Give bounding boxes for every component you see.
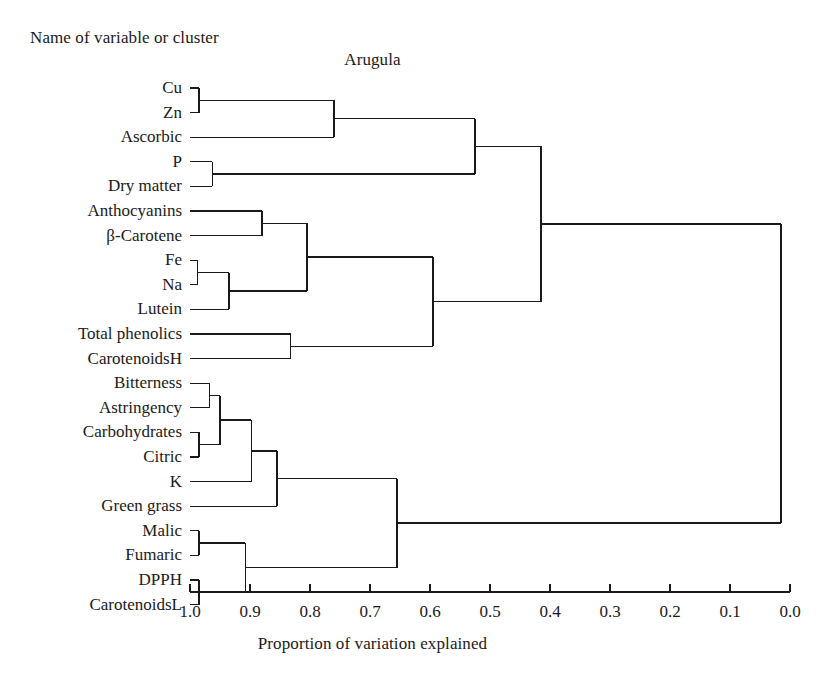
dendrogram-tree [0,0,835,692]
dendrogram-figure: Name of variable or cluster Arugula CuZn… [0,0,835,692]
x-tick-label: 1.0 [170,602,210,622]
x-axis-title: Proportion of variation explained [0,634,790,654]
x-tick-label: 0.5 [470,602,510,622]
x-tick-label: 0.6 [410,602,450,622]
x-tick-label: 0.2 [650,602,690,622]
x-tick-label: 0.9 [230,602,270,622]
x-tick-label: 0.7 [350,602,390,622]
x-tick-label: 0.8 [290,602,330,622]
x-tick-label: 0.4 [530,602,570,622]
x-tick-label: 0.0 [770,602,810,622]
x-tick-label: 0.3 [590,602,630,622]
x-tick-label: 0.1 [710,602,750,622]
